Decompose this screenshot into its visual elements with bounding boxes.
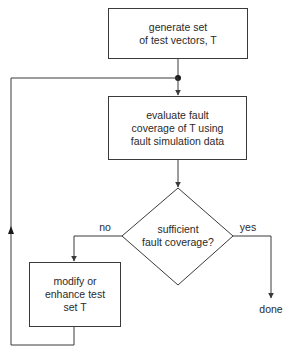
modify-label: modify or enhance test set T bbox=[29, 262, 121, 327]
evaluate-line-3: fault simulation data bbox=[131, 135, 224, 148]
evaluate-line-2: coverage of T using bbox=[132, 122, 224, 135]
arrow-yes-done bbox=[233, 236, 271, 298]
arrow-no-modify bbox=[74, 236, 122, 261]
decision-label: sufficient fault coverage? bbox=[122, 214, 234, 258]
decision-line-1: sufficient bbox=[157, 223, 198, 236]
evaluate-label: evaluate fault coverage of T using fault… bbox=[108, 96, 247, 160]
generate-line-1: generate set bbox=[149, 21, 207, 34]
done-label: done bbox=[255, 303, 287, 316]
generate-label: generate set of test vectors, T bbox=[108, 8, 248, 59]
modify-line-2: enhance test bbox=[45, 288, 105, 301]
modify-line-3: set T bbox=[63, 301, 86, 314]
generate-line-2: of test vectors, T bbox=[139, 34, 216, 47]
no-label: no bbox=[95, 221, 115, 234]
loop-arrow-head bbox=[8, 226, 14, 234]
evaluate-line-1: evaluate fault bbox=[146, 109, 208, 122]
yes-label: yes bbox=[236, 221, 260, 234]
modify-line-1: modify or bbox=[53, 275, 96, 288]
decision-line-2: fault coverage? bbox=[142, 236, 214, 249]
